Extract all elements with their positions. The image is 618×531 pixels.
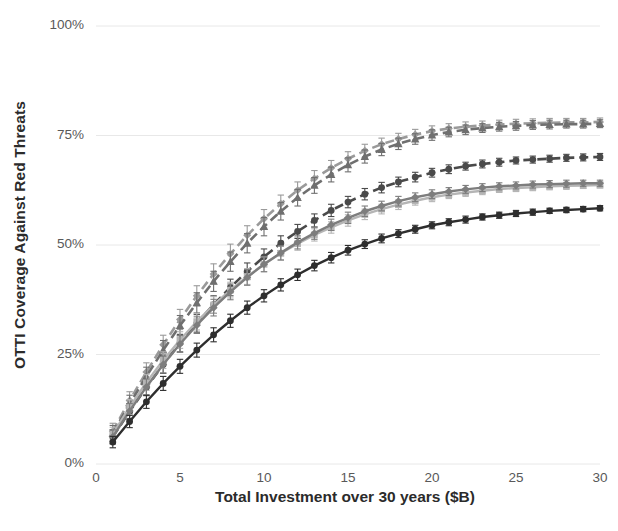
- x-tick-label: 25: [496, 470, 536, 485]
- series-line: [113, 122, 600, 431]
- data-point-marker: [412, 226, 419, 233]
- series-6: [109, 205, 603, 448]
- data-point-marker: [294, 228, 301, 235]
- data-point-marker: [261, 292, 268, 299]
- y-tick-label: 25%: [28, 346, 84, 361]
- data-point-marker: [445, 219, 452, 226]
- series-4: [109, 182, 603, 442]
- data-point-marker: [580, 154, 587, 161]
- data-point-marker: [328, 254, 335, 261]
- data-point-marker: [143, 398, 150, 405]
- chart-container: OTTI Coverage Against Red Threats Total …: [0, 0, 618, 531]
- data-point-marker: [378, 184, 385, 191]
- data-point-marker: [395, 179, 402, 186]
- data-point-marker: [597, 205, 604, 212]
- y-tick-label: 75%: [28, 127, 84, 142]
- data-point-marker: [328, 207, 335, 214]
- data-point-marker: [513, 210, 520, 217]
- data-point-marker: [597, 154, 604, 161]
- data-point-marker: [496, 159, 503, 166]
- series-line: [113, 124, 600, 434]
- data-point-marker: [546, 155, 553, 162]
- data-point-marker: [294, 271, 301, 278]
- data-point-marker: [529, 156, 536, 163]
- data-point-marker: [496, 212, 503, 219]
- data-point-marker: [361, 191, 368, 198]
- data-point-marker: [210, 331, 217, 338]
- markers: [109, 182, 603, 438]
- data-point-marker: [345, 199, 352, 206]
- series-group: [109, 118, 605, 448]
- data-point-marker: [109, 439, 116, 446]
- data-point-marker: [445, 166, 452, 173]
- data-point-marker: [529, 209, 536, 216]
- series-2: [109, 119, 605, 441]
- error-bars: [110, 118, 604, 439]
- data-point-marker: [244, 304, 251, 311]
- data-point-marker: [462, 216, 469, 223]
- error-bars: [110, 120, 604, 441]
- data-point-marker: [563, 154, 570, 161]
- markers: [109, 118, 604, 435]
- x-tick-label: 0: [76, 470, 116, 485]
- x-tick-label: 5: [160, 470, 200, 485]
- data-point-marker: [345, 247, 352, 254]
- data-point-marker: [160, 380, 167, 387]
- markers: [109, 119, 605, 436]
- x-tick-label: 20: [412, 470, 452, 485]
- series-3: [109, 153, 603, 443]
- data-point-marker: [293, 193, 301, 201]
- x-tick-label: 10: [244, 470, 284, 485]
- data-point-marker: [429, 169, 436, 176]
- markers: [109, 205, 603, 446]
- data-point-marker: [479, 161, 486, 168]
- data-point-marker: [394, 139, 402, 147]
- data-point-marker: [513, 157, 520, 164]
- y-tick-label: 50%: [28, 236, 84, 251]
- data-point-marker: [462, 163, 469, 170]
- data-point-marker: [177, 363, 184, 370]
- y-tick-label: 100%: [28, 17, 84, 32]
- data-point-marker: [378, 235, 385, 242]
- error-bars: [110, 153, 604, 443]
- error-bars: [110, 206, 604, 448]
- data-point-marker: [479, 214, 486, 221]
- data-point-marker: [429, 222, 436, 229]
- data-point-marker: [227, 317, 234, 324]
- error-bars: [110, 180, 604, 444]
- data-point-marker: [311, 217, 318, 224]
- y-tick-label: 0%: [28, 455, 84, 470]
- data-point-marker: [412, 174, 419, 181]
- series-5: [109, 179, 604, 444]
- data-point-marker: [277, 281, 284, 288]
- data-point-marker: [580, 206, 587, 213]
- plot-svg: [0, 0, 618, 531]
- data-point-marker: [126, 418, 133, 425]
- data-point-marker: [395, 230, 402, 237]
- error-bars: [110, 182, 604, 441]
- data-point-marker: [193, 347, 200, 354]
- series-1: [109, 118, 604, 439]
- series-line: [113, 208, 600, 442]
- x-tick-label: 15: [328, 470, 368, 485]
- data-point-marker: [546, 207, 553, 214]
- markers: [109, 154, 603, 441]
- data-point-marker: [361, 241, 368, 248]
- data-point-marker: [311, 262, 318, 269]
- data-point-marker: [563, 207, 570, 214]
- series-line: [113, 157, 600, 437]
- x-tick-label: 30: [580, 470, 618, 485]
